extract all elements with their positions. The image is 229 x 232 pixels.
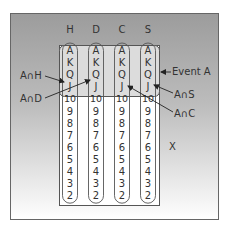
card-rank: 8 <box>145 118 151 129</box>
card-rank: 3 <box>67 178 73 189</box>
card-rank: 7 <box>145 130 151 141</box>
card-rank: J <box>68 81 72 92</box>
label-a-and-h: A∩H <box>20 70 42 81</box>
card-rank: 2 <box>145 190 151 201</box>
card-rank: 3 <box>119 178 125 189</box>
card-rank: 8 <box>119 118 125 129</box>
card-rank: 9 <box>67 106 73 117</box>
card-rank: 2 <box>119 190 125 201</box>
card-rank: A <box>93 45 100 56</box>
card-rank: 4 <box>67 166 73 177</box>
card-rank: 2 <box>93 190 99 201</box>
card-rank: 5 <box>119 154 125 165</box>
card-rank: 5 <box>145 154 151 165</box>
card-rank: A <box>67 45 74 56</box>
card-rank: 9 <box>119 106 125 117</box>
card-rank: 2 <box>67 190 73 201</box>
card-rank: 5 <box>93 154 99 165</box>
card-rank: K <box>67 57 74 68</box>
card-rank: 7 <box>67 130 73 141</box>
label-event-a: Event A <box>172 66 211 77</box>
card-rank: Q <box>92 69 100 80</box>
card-rank: 4 <box>93 166 99 177</box>
card-rank: 8 <box>93 118 99 129</box>
card-rank: 5 <box>67 154 73 165</box>
card-rank: J <box>146 81 150 92</box>
card-rank: K <box>93 57 100 68</box>
card-rank: 6 <box>93 142 99 153</box>
card-rank: K <box>145 57 152 68</box>
card-rank: 9 <box>145 106 151 117</box>
card-rank: K <box>119 57 126 68</box>
card-rank: J <box>120 81 124 92</box>
card-rank: 7 <box>119 130 125 141</box>
label-a-and-c: A∩C <box>174 108 195 119</box>
card-rank: 6 <box>67 142 73 153</box>
label-sample-space: X <box>169 141 176 152</box>
card-rank: 3 <box>93 178 99 189</box>
card-rank: 10 <box>64 93 76 104</box>
label-a-and-d: A∩D <box>20 93 42 104</box>
card-rank: A <box>119 45 126 56</box>
suit-header-c: C <box>119 24 126 35</box>
card-rank: Q <box>66 69 74 80</box>
card-rank: 9 <box>93 106 99 117</box>
card-rank: 4 <box>145 166 151 177</box>
card-rank: Q <box>118 69 126 80</box>
suit-header-s: S <box>145 24 151 35</box>
card-rank: 10 <box>116 93 128 104</box>
label-a-and-s: A∩S <box>174 89 195 100</box>
card-rank: 10 <box>90 93 102 104</box>
card-rank: 4 <box>119 166 125 177</box>
card-rank: 6 <box>145 142 151 153</box>
suit-header-h: H <box>66 24 74 35</box>
card-rank: A <box>145 45 152 56</box>
card-rank: 6 <box>119 142 125 153</box>
card-rank: 3 <box>145 178 151 189</box>
card-rank: Q <box>144 69 152 80</box>
suit-header-d: D <box>92 24 100 35</box>
card-rank: J <box>94 81 98 92</box>
card-rank: 8 <box>67 118 73 129</box>
sample-space-diagram: AKQJ1098765432AKQJ1098765432AKQJ10987654… <box>0 0 229 232</box>
card-rank: 7 <box>93 130 99 141</box>
